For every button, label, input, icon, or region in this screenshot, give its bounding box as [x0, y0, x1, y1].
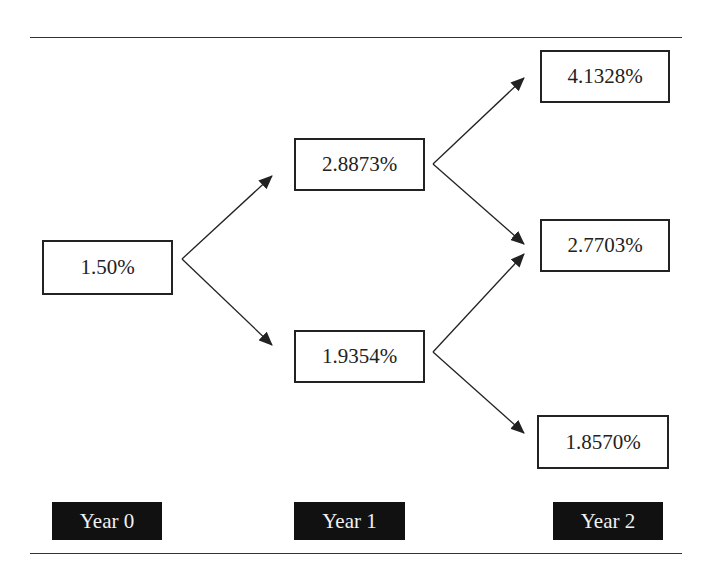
node-year0: 1.50% [42, 240, 173, 295]
node-year1-up: 2.8873% [294, 138, 425, 191]
node-year1-down: 1.9354% [294, 330, 425, 383]
arrow-year0-to-year1-down [182, 259, 272, 345]
node-year2-mid: 2.7703% [540, 219, 670, 272]
arrow-year1-down-to-year2-down [433, 352, 524, 433]
label-year1: Year 1 [294, 502, 405, 540]
arrow-year1-up-to-year2-up [433, 78, 524, 164]
arrow-year0-to-year1-up [182, 176, 272, 259]
node-year2-down: 1.8570% [537, 415, 669, 469]
label-year0: Year 0 [52, 502, 162, 540]
arrow-year1-down-to-year2-mid [433, 254, 524, 352]
node-year2-up: 4.1328% [540, 50, 670, 103]
label-year2: Year 2 [553, 502, 663, 540]
arrow-year1-up-to-year2-mid [433, 164, 524, 244]
